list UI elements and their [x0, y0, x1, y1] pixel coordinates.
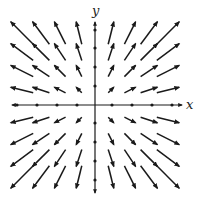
field-arrow	[11, 65, 33, 76]
y-axis-label: y	[91, 3, 100, 18]
field-arrow	[54, 133, 65, 144]
field-arrow	[124, 87, 135, 93]
field-arrow	[33, 166, 50, 188]
field-arrow	[157, 150, 179, 167]
field-arrow	[33, 117, 50, 123]
y-axis-tick	[93, 28, 96, 31]
field-arrow	[54, 117, 65, 123]
field-arrow	[33, 133, 50, 144]
y-axis-tick	[93, 140, 96, 143]
field-arrow	[76, 133, 82, 144]
field-arrow	[108, 133, 114, 144]
field-arrow	[124, 133, 135, 144]
field-arrow	[141, 44, 158, 61]
field-arrow	[76, 44, 82, 61]
x-axis-tick	[75, 103, 78, 106]
field-arrow	[124, 150, 135, 167]
field-arrow	[33, 44, 50, 61]
field-arrow	[33, 150, 50, 167]
field-arrow	[76, 22, 82, 44]
field-arrow	[124, 166, 135, 188]
field-arrow	[108, 87, 114, 93]
field-arrow	[108, 65, 114, 76]
field-arrow	[157, 133, 179, 144]
field-arrow	[141, 87, 158, 93]
field-arrow	[141, 65, 158, 76]
field-arrow	[157, 166, 179, 188]
field-arrow	[76, 87, 82, 93]
field-arrow	[108, 150, 114, 167]
field-arrow	[76, 65, 82, 76]
field-arrow	[54, 87, 65, 93]
field-arrow	[157, 117, 179, 123]
field-arrow	[157, 65, 179, 76]
field-arrow	[141, 117, 158, 123]
field-arrow	[124, 44, 135, 61]
field-arrow	[11, 150, 33, 167]
field-arrow	[157, 22, 179, 44]
y-axis-tick	[93, 46, 96, 49]
x-axis-tick	[110, 103, 113, 106]
field-arrow	[54, 65, 65, 76]
y-axis-tick	[93, 121, 96, 124]
vector-field-diagram: x y	[0, 0, 200, 206]
field-arrow	[108, 117, 114, 123]
x-axis-tick	[170, 103, 173, 106]
field-arrow	[33, 87, 50, 93]
field-arrow	[54, 150, 65, 167]
field-arrow	[124, 65, 135, 76]
field-arrow	[76, 117, 82, 123]
field-arrow	[54, 44, 65, 61]
field-arrow	[141, 133, 158, 144]
field-arrow	[108, 166, 114, 188]
x-axis-tick	[130, 103, 133, 106]
field-arrow	[141, 22, 158, 44]
field-arrow	[54, 166, 65, 188]
field-arrow	[11, 44, 33, 61]
field-arrow	[11, 22, 33, 44]
field-arrow	[141, 150, 158, 167]
y-axis-tick	[93, 178, 96, 181]
field-arrow	[108, 22, 114, 44]
field-arrow	[157, 87, 179, 93]
field-arrow	[141, 166, 158, 188]
y-axis-tick	[93, 159, 96, 162]
field-arrow	[11, 87, 33, 93]
x-axis-tick	[35, 103, 38, 106]
field-arrow	[124, 117, 135, 123]
field-arrow	[33, 22, 50, 44]
field-arrow	[157, 44, 179, 61]
x-axis-tick	[15, 103, 18, 106]
field-arrow	[54, 22, 65, 44]
y-axis-tick	[93, 84, 96, 87]
x-axis-tick	[55, 103, 58, 106]
field-arrow	[11, 117, 33, 123]
field-arrow	[11, 166, 33, 188]
x-axis-label: x	[186, 97, 194, 112]
field-arrow	[108, 44, 114, 61]
field-arrow	[76, 150, 82, 167]
y-axis-tick	[93, 65, 96, 68]
field-arrow	[76, 166, 82, 188]
x-axis-tick	[150, 103, 153, 106]
field-arrow	[33, 65, 50, 76]
field-arrow	[11, 133, 33, 144]
field-arrow	[124, 22, 135, 44]
